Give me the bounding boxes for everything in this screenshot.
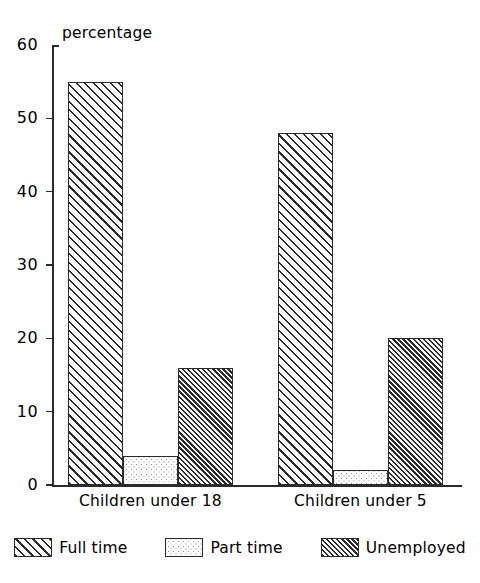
plot-area <box>52 45 462 485</box>
bar-chart: percentage 0102030405060 Children under … <box>0 0 480 583</box>
bar-part-time-group-1 <box>123 456 178 485</box>
y-axis-label-60: 60 <box>0 37 38 53</box>
y-axis-label-50: 50 <box>0 110 38 126</box>
y-axis-label-30: 30 <box>0 257 38 273</box>
chart-legend: Full timePart timeUnemployed <box>0 538 480 557</box>
legend-item-unemployed: Unemployed <box>321 538 466 557</box>
y-axis-label-40: 40 <box>0 184 38 200</box>
bar-full-time-group-1 <box>68 82 123 485</box>
legend-swatch-full-time <box>14 538 52 557</box>
legend-swatch-unemployed <box>321 538 359 557</box>
legend-label: Part time <box>210 539 282 557</box>
legend-item-full-time: Full time <box>14 538 127 557</box>
y-axis-title: percentage <box>62 24 152 42</box>
bar-part-time-group-2 <box>333 470 388 485</box>
x-axis-line <box>52 485 462 487</box>
x-axis-label-group-2: Children under 5 <box>261 492 461 510</box>
bar-unemployed-group-2 <box>388 338 443 485</box>
y-axis-label-20: 20 <box>0 330 38 346</box>
legend-label: Full time <box>59 539 127 557</box>
bar-unemployed-group-1 <box>178 368 233 485</box>
y-axis-label-10: 10 <box>0 404 38 420</box>
legend-swatch-part-time <box>165 538 203 557</box>
legend-item-part-time: Part time <box>165 538 282 557</box>
x-axis-label-group-1: Children under 18 <box>51 492 251 510</box>
bar-full-time-group-2 <box>278 133 333 485</box>
y-axis-label-0: 0 <box>0 477 38 493</box>
legend-label: Unemployed <box>366 539 466 557</box>
